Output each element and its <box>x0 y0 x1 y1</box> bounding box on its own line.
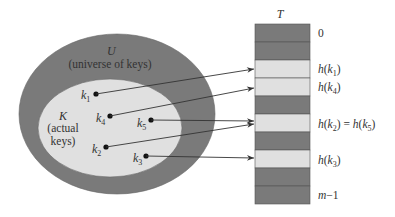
table-slot-3 <box>255 78 310 96</box>
slot-label-hk3: h(k3) <box>318 154 341 169</box>
universe-symbol: U <box>107 44 117 58</box>
table-slot-5 <box>255 114 310 132</box>
hash-table-diagram: U (universe of keys) K (actual keys) T 0… <box>0 0 395 217</box>
table-slot-7 <box>255 150 310 168</box>
slot-label-hk1: h(k1) <box>318 63 341 78</box>
slot-label-m-minus-1: m−1 <box>318 189 339 201</box>
table-slot-6 <box>255 132 310 150</box>
slot-label-0: 0 <box>318 27 324 39</box>
actual-keys-caption-1: (actual <box>47 122 78 135</box>
table-slot-0 <box>255 24 310 42</box>
universe-caption: (universe of keys) <box>68 58 151 71</box>
table-slot-1 <box>255 42 310 60</box>
table-title: T <box>277 7 285 21</box>
table-slot-8 <box>255 168 310 186</box>
table-slot-9 <box>255 186 310 204</box>
actual-keys-caption-2: keys) <box>51 135 76 148</box>
table-slot-4 <box>255 96 310 114</box>
table-slots <box>255 24 310 204</box>
actual-keys-symbol: K <box>58 109 68 123</box>
slot-label-hk4: h(k4) <box>318 81 341 96</box>
slot-label-hk2-eq-hk5: h(k2) = h(k5) <box>318 118 376 133</box>
table-slot-2 <box>255 60 310 78</box>
